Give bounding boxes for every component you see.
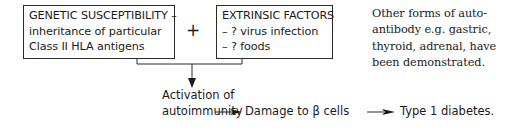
genetic-susceptibility-box: GENETIC SUSCEPTIBILITY – inheritance of … bbox=[23, 5, 175, 59]
extrinsic-line-1: EXTRINSIC FACTORS bbox=[222, 8, 328, 24]
side-note-line-1: Other forms of auto- bbox=[372, 6, 502, 22]
side-note-line-2: antibody e.g. gastric, bbox=[372, 22, 502, 38]
genetic-line-1: GENETIC SUSCEPTIBILITY – bbox=[29, 8, 170, 24]
side-note: Other forms of auto- antibody e.g. gastr… bbox=[372, 6, 502, 71]
plus-operator: + bbox=[186, 20, 200, 40]
activation-line-1: Activation of bbox=[162, 87, 243, 103]
damage-to-beta-cells: Damage to β cells bbox=[245, 103, 349, 119]
activation-of-autoimmunity: Activation of autoimmunity bbox=[162, 87, 243, 119]
extrinsic-line-2: – ? virus infection bbox=[222, 24, 328, 40]
side-note-line-3: thyroid, adrenal, have bbox=[372, 39, 502, 55]
genetic-line-2: inheritance of particular bbox=[29, 24, 170, 40]
genetic-line-3: Class II HLA antigens bbox=[29, 39, 170, 55]
type-1-diabetes: Type 1 diabetes. bbox=[400, 103, 494, 119]
side-note-line-4: been demonstrated. bbox=[372, 55, 502, 71]
extrinsic-line-3: – ? foods bbox=[222, 39, 328, 55]
activation-line-2: autoimmunity bbox=[162, 103, 243, 119]
extrinsic-factors-box: EXTRINSIC FACTORS – ? virus infection – … bbox=[216, 5, 333, 59]
